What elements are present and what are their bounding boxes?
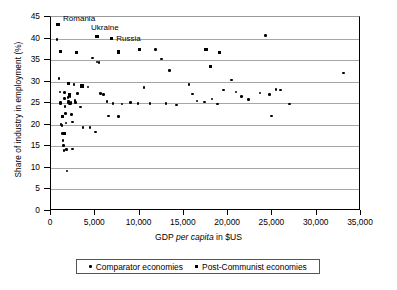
data-point — [89, 126, 92, 129]
data-point — [117, 115, 120, 118]
data-point — [66, 170, 69, 173]
data-point — [138, 48, 141, 51]
data-point — [70, 101, 73, 104]
y-tick-label: 0 — [6, 206, 40, 214]
data-point — [64, 112, 67, 115]
gridline — [51, 125, 359, 126]
annotation-label-romania: Romania — [63, 15, 95, 23]
y-tick-label: 10 — [6, 163, 40, 171]
gridline — [51, 103, 359, 104]
data-point — [58, 77, 61, 80]
y-tick-label: 5 — [6, 184, 40, 192]
y-tick-label: 40 — [6, 34, 40, 42]
scatter-chart-figure: Share of industry in employment (%) 0510… — [0, 0, 397, 290]
data-point — [98, 61, 101, 64]
y-axis-title: Share of industry in employment (%) — [14, 15, 23, 205]
data-point — [129, 101, 132, 104]
data-point — [106, 100, 109, 103]
x-axis-title: GDP per capita in $US — [0, 232, 397, 242]
x-tick-mark — [316, 210, 317, 215]
data-point — [191, 93, 194, 96]
data-point — [65, 148, 68, 151]
data-point — [59, 50, 62, 53]
x-tick-mark — [139, 210, 140, 215]
data-point — [204, 48, 207, 51]
data-point — [216, 103, 219, 106]
data-point — [94, 131, 97, 134]
annotation-label-russia: Russia — [116, 35, 140, 43]
x-axis-title-suffix: in $US — [214, 232, 242, 242]
data-point — [240, 95, 243, 98]
data-point — [62, 139, 65, 142]
data-point — [188, 83, 191, 86]
data-point — [62, 144, 65, 147]
data-point — [279, 89, 282, 92]
y-tick-label: 30 — [6, 77, 40, 85]
data-point — [91, 57, 94, 60]
data-point — [80, 84, 83, 87]
plot-area: RomaniaUkraineRussia — [50, 16, 360, 210]
data-point — [168, 69, 171, 72]
data-point — [160, 58, 163, 61]
x-axis-title-prefix: GDP — [155, 232, 176, 242]
data-point — [112, 102, 115, 105]
x-tick-mark — [360, 210, 361, 215]
gridline — [51, 146, 359, 147]
data-point — [70, 113, 73, 116]
data-point — [63, 132, 66, 135]
y-tick-label: 20 — [6, 120, 40, 128]
data-point — [87, 86, 90, 89]
x-tick-mark — [50, 210, 51, 215]
data-point — [82, 126, 85, 129]
data-point — [117, 50, 120, 53]
data-point — [61, 124, 64, 127]
data-point — [73, 83, 76, 86]
data-point — [342, 72, 345, 75]
gridline — [51, 168, 359, 169]
legend-label-post-communist: Post-Communist economies — [202, 262, 307, 272]
data-point — [211, 98, 214, 101]
data-point — [154, 48, 157, 51]
data-point — [110, 37, 113, 40]
data-point — [259, 92, 262, 95]
data-point — [63, 91, 66, 94]
data-point — [76, 92, 79, 95]
gridline — [51, 82, 359, 83]
y-tick-label: 15 — [6, 141, 40, 149]
x-tick-mark — [271, 210, 272, 215]
gridline — [51, 39, 359, 40]
gridline — [51, 189, 359, 190]
data-point — [71, 148, 74, 151]
data-point — [95, 35, 98, 38]
data-point — [143, 86, 146, 89]
data-point — [222, 89, 225, 92]
data-point — [63, 97, 66, 100]
y-tick-label: 25 — [6, 98, 40, 106]
data-point — [74, 101, 77, 104]
data-point — [268, 93, 271, 96]
data-point — [209, 65, 212, 68]
legend-item-post-communist: Post-Communist economies — [195, 262, 307, 272]
x-tick-label: 35,000 — [330, 218, 390, 227]
data-point — [79, 106, 82, 109]
x-tick-mark — [183, 210, 184, 215]
data-point — [56, 23, 59, 26]
data-point — [270, 115, 273, 118]
data-point — [59, 91, 62, 94]
data-point — [102, 93, 105, 96]
data-point — [75, 51, 78, 54]
x-tick-mark — [94, 210, 95, 215]
y-tick-label: 45 — [6, 12, 40, 20]
chart-legend: Comparator economies Post-Communist econ… — [76, 259, 320, 274]
data-point — [64, 105, 67, 108]
data-point — [68, 93, 71, 96]
data-point — [235, 91, 238, 94]
data-point — [203, 101, 206, 104]
data-point — [288, 103, 291, 106]
x-tick-mark — [227, 210, 228, 215]
square-marker-icon — [195, 265, 198, 268]
data-point — [247, 98, 250, 101]
data-point — [218, 51, 221, 54]
data-point — [175, 104, 178, 107]
data-point — [121, 103, 124, 106]
